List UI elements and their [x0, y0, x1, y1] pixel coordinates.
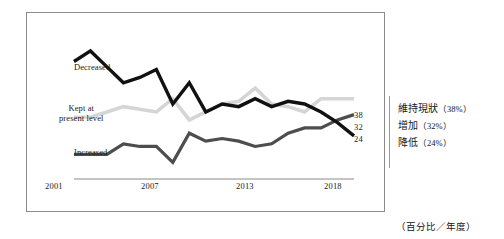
x-axis-tick-2018: 2018 — [324, 181, 342, 191]
legend-pct-keep-status-quo: （38%） — [438, 104, 472, 114]
x-axis-tick-2007: 2007 — [141, 181, 159, 191]
end-value-decreased: 24 — [354, 134, 363, 144]
end-value-increased: 32 — [354, 122, 363, 132]
series-label-increased: Increased — [74, 148, 107, 158]
legend-pct-decrease: （24%） — [418, 138, 452, 148]
chart-footnote-unit: （百分比／年度） — [396, 219, 476, 233]
legend-label-keep-status-quo: 維持現狀 — [398, 103, 438, 114]
legend-item-decrease: 降低（24%） — [398, 138, 498, 148]
legend-label-increase: 增加 — [398, 120, 418, 131]
series-line-decreased — [74, 51, 354, 136]
legend-item-increase: 增加（32%） — [398, 121, 498, 131]
chart-frame: Decreased Kept at present level Increase… — [26, 12, 385, 212]
series-label-decreased: Decreased — [74, 63, 110, 73]
x-axis-tick-2013: 2013 — [236, 181, 254, 191]
legend-divider — [389, 96, 390, 168]
series-label-kept-line2: present level — [59, 114, 104, 124]
series-line-kept-at-present-level — [74, 88, 354, 120]
legend-label-decrease: 降低 — [398, 137, 418, 148]
chart-page: Decreased Kept at present level Increase… — [0, 0, 504, 239]
x-axis-tick-2001: 2001 — [45, 181, 63, 191]
series-label-kept-at-present-level: Kept at present level — [59, 104, 104, 123]
legend: 維持現狀（38%） 增加（32%） 降低（24%） — [398, 104, 498, 155]
end-value-kept: 38 — [354, 110, 363, 120]
legend-item-keep-status-quo: 維持現狀（38%） — [398, 104, 498, 114]
series-line-increased — [74, 115, 354, 163]
legend-pct-increase: （32%） — [418, 121, 452, 131]
